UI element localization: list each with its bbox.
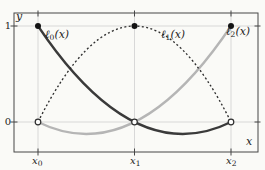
- curve-label-l1: ℓ1(x): [161, 29, 185, 42]
- curve-label-l0: ℓ0(x): [45, 29, 69, 42]
- node-marker-open: [228, 119, 234, 125]
- node-marker-filled: [35, 23, 41, 29]
- y-tick-label-1: 1: [1, 21, 11, 31]
- x-tick-label-x2: x2: [226, 156, 236, 168]
- y-tick-label-0: 0: [1, 117, 11, 127]
- node-marker-open: [35, 119, 41, 125]
- x-axis-label: x: [246, 136, 252, 147]
- x-tick-label-x1: x1: [130, 156, 140, 168]
- x-tick-label-x0: x0: [32, 156, 42, 168]
- curve-label-l2: ℓ2(x): [226, 26, 250, 39]
- node-marker-filled: [132, 23, 138, 29]
- lagrange-basis-figure: y x 1 0 x0 x1 x2 ℓ0(x) ℓ1(x) ℓ2(x): [0, 0, 265, 170]
- y-axis-label: y: [16, 11, 22, 22]
- node-marker-open: [132, 119, 138, 125]
